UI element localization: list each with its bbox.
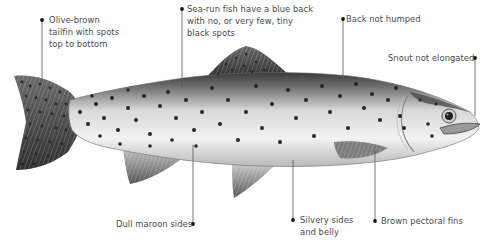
trout-diagram: Olive-brown tailfin with spots top to bo… xyxy=(0,0,491,245)
callout-sides: Dull maroon sides xyxy=(116,218,192,230)
callout-belly-line-1: Silvery sides xyxy=(300,214,353,226)
callout-sea-run-line-1: Sea-run fish have a blue back xyxy=(187,3,313,15)
callout-snout-line-1: Snout not elongated xyxy=(388,52,474,64)
callout-pectoral-line-1: Brown pectoral fins xyxy=(381,215,463,227)
callout-sides-line-1: Dull maroon sides xyxy=(116,218,192,230)
callout-snout: Snout not elongated xyxy=(388,52,474,64)
callout-tailfin-line-3: top to bottom xyxy=(49,38,119,50)
callout-sea-run: Sea-run fish have a blue back with no, o… xyxy=(187,3,313,39)
callout-belly: Silvery sides and belly xyxy=(300,214,353,238)
eye xyxy=(442,109,456,123)
callout-back: Back not humped xyxy=(346,13,421,25)
callout-back-line-1: Back not humped xyxy=(346,13,421,25)
callout-tailfin-line-2: tailfin with spots xyxy=(49,26,119,38)
callout-tailfin: Olive-brown tailfin with spots top to bo… xyxy=(49,14,119,50)
callout-belly-line-2: and belly xyxy=(300,226,353,238)
callout-sea-run-line-2: with no, or very few, tiny xyxy=(187,15,313,27)
callout-tailfin-line-1: Olive-brown xyxy=(49,14,119,26)
callout-sea-run-line-3: black spots xyxy=(187,27,313,39)
callout-pectoral: Brown pectoral fins xyxy=(381,215,463,227)
pelvic-fin xyxy=(232,162,276,198)
